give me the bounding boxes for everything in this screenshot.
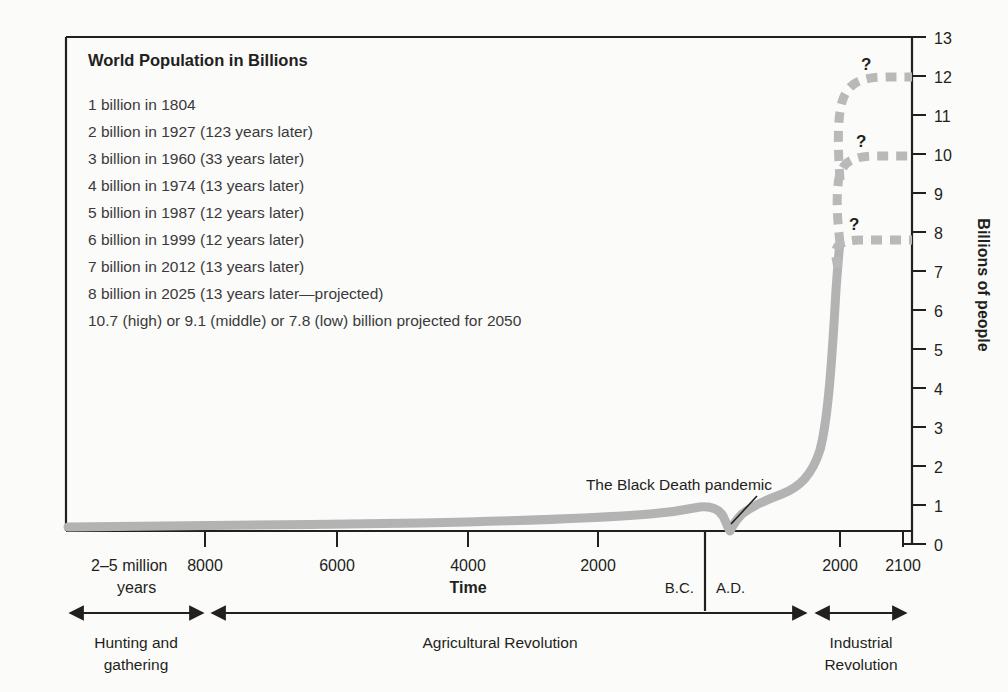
- era-agricultural: Agricultural Revolution: [212, 613, 806, 651]
- callout-line-8: 10.7 (high) or 9.1 (middle) or 7.8 (low)…: [88, 312, 522, 329]
- era-label-industrial-line2: Revolution: [824, 656, 897, 673]
- black-death-annotation: The Black Death pandemic: [586, 476, 772, 493]
- question-mark-low: ?: [849, 215, 859, 234]
- callout-line-5: 6 billion in 1999 (12 years later): [88, 231, 304, 248]
- y-tick-label-3: 3: [934, 420, 943, 437]
- x-label-6000bc: 6000: [319, 557, 355, 574]
- callout-line-7: 8 billion in 2025 (13 years later—projec…: [88, 285, 384, 302]
- y-tick-label-2: 2: [934, 459, 943, 476]
- question-mark-high: ?: [861, 55, 871, 74]
- x-label-2100ad: 2100: [885, 557, 921, 574]
- y-tick-label-12: 12: [934, 69, 952, 86]
- bc-label: B.C.: [665, 579, 694, 596]
- x-axis-ticks: [205, 531, 903, 547]
- population-growth-chart: 13 12 11 10 9 8 7 6 5: [0, 0, 1008, 692]
- y-axis-ticks: 13 12 11 10 9 8 7 6 5: [903, 30, 952, 554]
- callout-title: World Population in Billions: [88, 51, 308, 69]
- x-axis-labels: 2–5 million years 8000 6000 4000 2000 20…: [91, 557, 921, 596]
- y-tick-label-10: 10: [934, 147, 952, 164]
- y-tick-label-9: 9: [934, 186, 943, 203]
- projection-low-branch: [836, 240, 912, 268]
- callout-line-2: 3 billion in 1960 (33 years later): [88, 150, 304, 167]
- y-tick-label-4: 4: [934, 381, 943, 398]
- callout-line-6: 7 billion in 2012 (13 years later): [88, 258, 304, 275]
- era-label-hunting-line2: gathering: [104, 656, 169, 673]
- x-label-origin-line1: 2–5 million: [91, 557, 167, 574]
- figure-canvas: 13 12 11 10 9 8 7 6 5: [0, 0, 1008, 692]
- era-label-agricultural: Agricultural Revolution: [422, 634, 577, 651]
- y-tick-label-6: 6: [934, 303, 943, 320]
- y-tick-label-5: 5: [934, 342, 943, 359]
- x-axis-title: Time: [449, 579, 486, 596]
- x-label-4000bc: 4000: [450, 557, 486, 574]
- x-label-origin-line2: years: [117, 579, 156, 596]
- era-industrial: Industrial Revolution: [816, 613, 906, 673]
- ad-label: A.D.: [716, 579, 745, 596]
- callout-line-4: 5 billion in 1987 (12 years later): [88, 204, 304, 221]
- y-tick-label-11: 11: [934, 108, 951, 125]
- callout-line-0: 1 billion in 1804: [88, 96, 196, 113]
- y-tick-label-1: 1: [934, 498, 943, 515]
- era-hunting: Hunting and gathering: [70, 613, 203, 673]
- question-mark-middle: ?: [856, 132, 866, 151]
- y-axis-title: Billions of people: [975, 218, 992, 351]
- era-label-industrial-line1: Industrial: [830, 634, 893, 651]
- y-tick-label-8: 8: [934, 225, 943, 242]
- series-projections: [836, 77, 912, 268]
- callout-line-3: 4 billion in 1974 (13 years later): [88, 177, 304, 194]
- x-label-2000ad: 2000: [822, 557, 858, 574]
- callout-box: World Population in Billions 1 billion i…: [66, 37, 912, 531]
- x-label-8000bc: 8000: [187, 557, 223, 574]
- x-label-2000bc: 2000: [580, 557, 616, 574]
- callout-line-1: 2 billion in 1927 (123 years later): [88, 123, 313, 140]
- y-tick-label-7: 7: [934, 264, 943, 281]
- y-tick-label-0: 0: [934, 537, 943, 554]
- era-label-hunting-line1: Hunting and: [94, 634, 178, 651]
- y-tick-label-13: 13: [934, 30, 952, 47]
